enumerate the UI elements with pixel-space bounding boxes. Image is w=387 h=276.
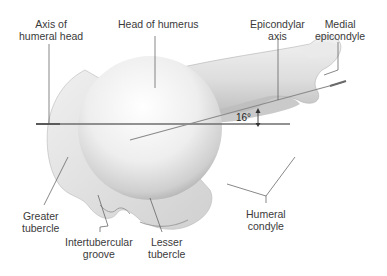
label-lesser-tubercle: Lesser tubercle [148,236,185,260]
label-greater-tubercle: Greater tubercle [22,210,59,234]
label-line-1: Greater [22,210,59,222]
label-line-2: axis [250,30,305,42]
label-line-2: tubercle [22,222,59,234]
label-medial-epicondyle: Medial epicondyle [315,18,365,42]
label-line-1: Epicondylar [250,18,305,30]
label-line-1: Axis of [19,18,83,30]
label-line-2: humeral head [19,30,83,42]
label-line-2: groove [65,248,133,260]
label-head-of-humerus: Head of humerus [118,18,199,30]
label-line-2: epicondyle [315,30,365,42]
humerus-diagram: Axis of humeral head Head of humerus Epi… [0,0,387,276]
label-epicondylar-axis: Epicondylar axis [250,18,305,42]
label-line-1: Head of humerus [118,18,199,30]
humeral-head-shape [78,56,222,200]
label-line-2: tubercle [148,248,185,260]
label-intertubercular-groove: Intertubercular groove [65,236,133,260]
label-line-1: Humeral [246,208,286,220]
label-line-1: Intertubercular [65,236,133,248]
label-axis-of-humeral-head: Axis of humeral head [19,18,83,42]
label-humeral-condyle: Humeral condyle [246,208,286,232]
angle-label: 16° [236,112,251,123]
label-line-2: condyle [246,220,286,232]
label-line-1: Lesser [148,236,185,248]
label-line-1: Medial [315,18,365,30]
